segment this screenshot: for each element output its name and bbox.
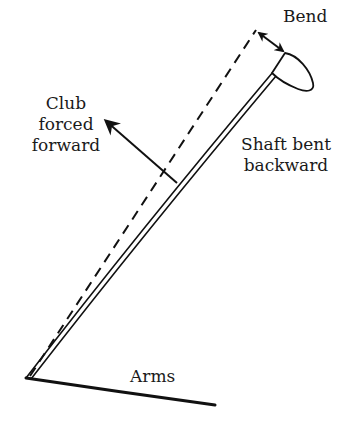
- shaft-bent-backward-line-1: Shaft bent: [232, 134, 340, 155]
- shaft-bent-backward-label: Shaft bent backward: [232, 134, 340, 176]
- club-head: [272, 53, 313, 91]
- straight-shaft-dashed-line: [30, 30, 256, 376]
- golf-club-diagram: [0, 0, 362, 426]
- force-arrow: [106, 121, 177, 183]
- club-forced-forward-line-3: forward: [30, 135, 102, 156]
- bend-label: Bend: [283, 6, 327, 27]
- club-forced-forward-line-2: forced: [30, 114, 102, 135]
- shaft-bent-backward-line-2: backward: [232, 155, 340, 176]
- arms-line: [26, 378, 215, 405]
- arms-label: Arms: [130, 366, 175, 387]
- club-forced-forward-line-1: Club: [30, 93, 102, 114]
- club-forced-forward-label: Club forced forward: [30, 93, 102, 156]
- bend-arrow: [259, 33, 283, 51]
